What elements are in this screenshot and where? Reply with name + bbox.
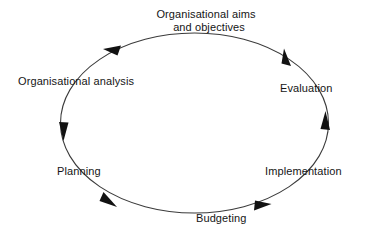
node-label-analysis: Organisational analysis — [18, 75, 134, 88]
arrow-left-icon — [59, 122, 69, 141]
cycle-diagram-graphic — [0, 0, 370, 248]
node-label-budgeting: Budgeting — [196, 212, 246, 225]
node-label-planning: Planning — [57, 165, 101, 178]
arrow-top-left-icon — [103, 46, 121, 56]
node-label-aims: Organisational aims and objectives — [146, 8, 266, 34]
node-label-aims-line1: Organisational aims — [156, 8, 255, 20]
node-label-implementation: Implementation — [265, 165, 342, 178]
cycle-diagram: Organisational aims and objectives Organ… — [0, 0, 370, 248]
arrow-top-right-icon — [282, 49, 292, 67]
node-label-evaluation: Evaluation — [280, 82, 332, 95]
node-label-aims-line2: and objectives — [152, 21, 266, 34]
arrow-bottom-left-icon — [100, 192, 118, 207]
arrow-bottom-right-icon — [254, 201, 272, 211]
